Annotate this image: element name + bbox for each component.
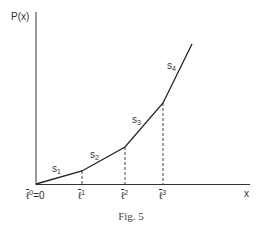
breakpoint-guides <box>82 103 163 184</box>
x-tick-l1: ℓ1 <box>78 188 85 201</box>
seg-sub: 3 <box>137 119 141 126</box>
x-axis-label: x <box>244 189 249 199</box>
tick-sup: 2 <box>124 189 128 196</box>
segment-label-s2: s2 <box>90 150 99 163</box>
tick-suffix: =0 <box>33 190 44 201</box>
seg-sub: 4 <box>172 65 176 72</box>
x-tick-l2: ℓ2 <box>121 188 128 201</box>
figure-caption: Fig. 5 <box>0 210 262 222</box>
seg-sub: 2 <box>95 154 99 161</box>
seg-sub: 1 <box>57 168 61 175</box>
tick-sup: 1 <box>81 189 85 196</box>
segment-label-s4: s4 <box>167 61 176 74</box>
tick-sup: 3 <box>162 189 166 196</box>
y-axis-label: P(x) <box>11 12 29 22</box>
segment-label-s1: s1 <box>52 164 61 177</box>
x-tick-l3: ℓ3 <box>159 188 166 201</box>
x-tick-l0: ℓ0=0 <box>26 188 45 201</box>
segment-label-s3: s3 <box>132 115 141 128</box>
